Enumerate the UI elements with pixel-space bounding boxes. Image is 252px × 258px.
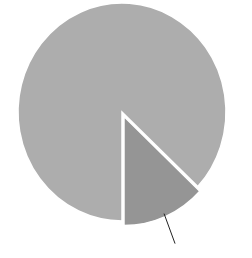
pie-chart — [0, 0, 252, 258]
leader-line — [164, 214, 175, 244]
